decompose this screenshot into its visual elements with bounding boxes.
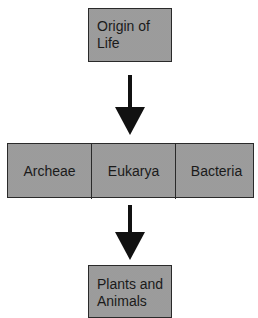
plants-and-animals-box: Plants and Animals bbox=[88, 265, 172, 318]
arrow-head bbox=[115, 107, 145, 135]
down-arrow-icon bbox=[115, 75, 145, 135]
plants-and-animals-label: Plants and Animals bbox=[97, 276, 163, 309]
origin-of-life-box: Origin of Life bbox=[88, 8, 172, 62]
domain-box-bacteria: Bacteria bbox=[175, 144, 257, 199]
domains-row: Archeae Eukarya Bacteria bbox=[7, 143, 254, 198]
arrow-shaft bbox=[128, 75, 132, 108]
domain-box-eukarya: Eukarya bbox=[91, 144, 175, 199]
origin-of-life-label: Origin of Life bbox=[97, 18, 150, 51]
domain-box-archeae: Archeae bbox=[8, 144, 91, 199]
domain-label: Bacteria bbox=[191, 163, 242, 180]
domain-label: Archeae bbox=[23, 163, 75, 180]
arrow-head bbox=[115, 232, 145, 260]
down-arrow-icon bbox=[115, 205, 145, 261]
domain-label: Eukarya bbox=[108, 163, 159, 180]
arrow-shaft bbox=[128, 205, 132, 233]
